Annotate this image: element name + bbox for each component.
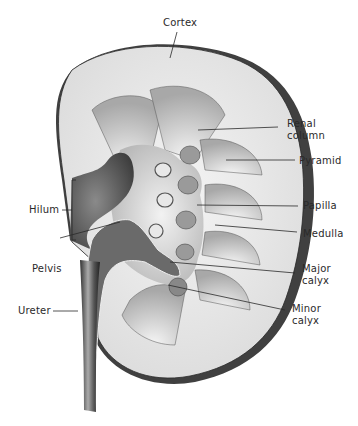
- label-renal-column: Renal column: [287, 118, 325, 142]
- label-renal-column-line2: column: [287, 130, 325, 142]
- minor-calyx: [155, 163, 171, 177]
- label-hilum: Hilum: [29, 204, 59, 216]
- label-cortex: Cortex: [163, 17, 197, 29]
- label-papilla: Papilla: [303, 200, 337, 212]
- minor-calyx: [157, 193, 173, 207]
- papilla: [178, 176, 198, 194]
- label-minor-calyx-line1: Minor: [292, 303, 321, 315]
- papilla: [176, 244, 194, 260]
- label-major-calyx: Major calyx: [302, 263, 331, 287]
- label-major-calyx-line2: calyx: [302, 275, 331, 287]
- label-minor-calyx: Minor calyx: [292, 303, 321, 327]
- label-minor-calyx-line2: calyx: [292, 315, 321, 327]
- label-medulla: Medulla: [303, 228, 344, 240]
- kidney-diagram: Cortex Renal column Pyramid Papilla Medu…: [0, 0, 358, 426]
- label-pyramid: Pyramid: [299, 155, 341, 167]
- label-ureter: Ureter: [18, 305, 51, 317]
- label-renal-column-line1: Renal: [287, 118, 325, 130]
- papilla: [180, 146, 200, 164]
- papilla: [176, 211, 196, 229]
- label-major-calyx-line1: Major: [302, 263, 331, 275]
- label-pelvis: Pelvis: [32, 263, 62, 275]
- minor-calyx: [149, 224, 163, 238]
